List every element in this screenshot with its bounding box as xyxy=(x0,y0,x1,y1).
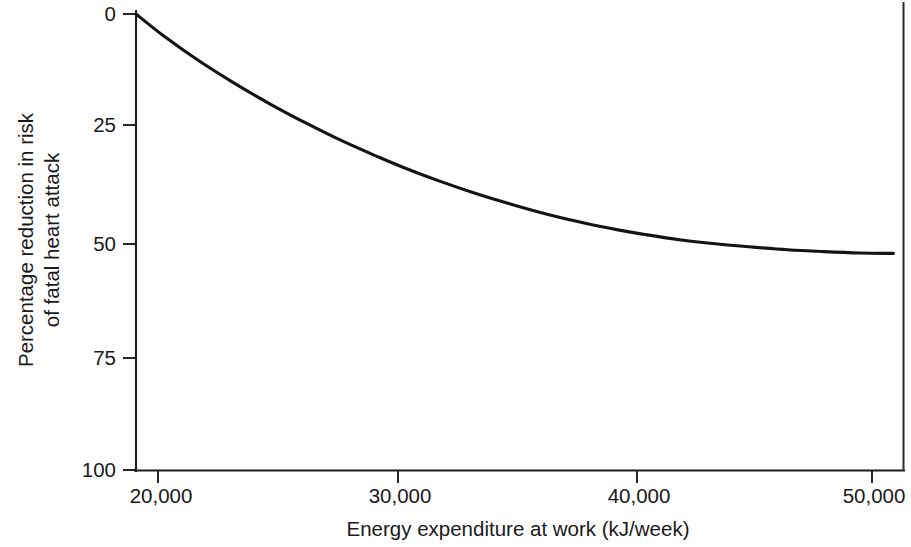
x-tick-label-30000: 30,000 xyxy=(369,484,432,507)
chart-container: 0 25 50 75 100 20,000 30,000 40,000 50,0… xyxy=(0,0,911,547)
x-tick-label-20000: 20,000 xyxy=(130,484,193,507)
y-tick-label-75: 75 xyxy=(93,346,116,369)
y-tick-label-0: 0 xyxy=(105,2,116,25)
y-axis-title-line1: Percentage reduction in risk xyxy=(14,112,37,367)
data-series-line xyxy=(136,14,893,253)
y-tick-label-50: 50 xyxy=(93,232,116,255)
x-tick-label-40000: 40,000 xyxy=(608,484,671,507)
y-tick-label-100: 100 xyxy=(82,458,116,481)
line-chart: 0 25 50 75 100 20,000 30,000 40,000 50,0… xyxy=(0,0,911,547)
y-tick-label-25: 25 xyxy=(93,113,116,136)
x-tick-label-50000: 50,000 xyxy=(843,484,906,507)
y-axis-title-line2: of fatal heart attack xyxy=(40,152,63,327)
x-axis-title: Energy expenditure at work (kJ/week) xyxy=(347,517,690,540)
